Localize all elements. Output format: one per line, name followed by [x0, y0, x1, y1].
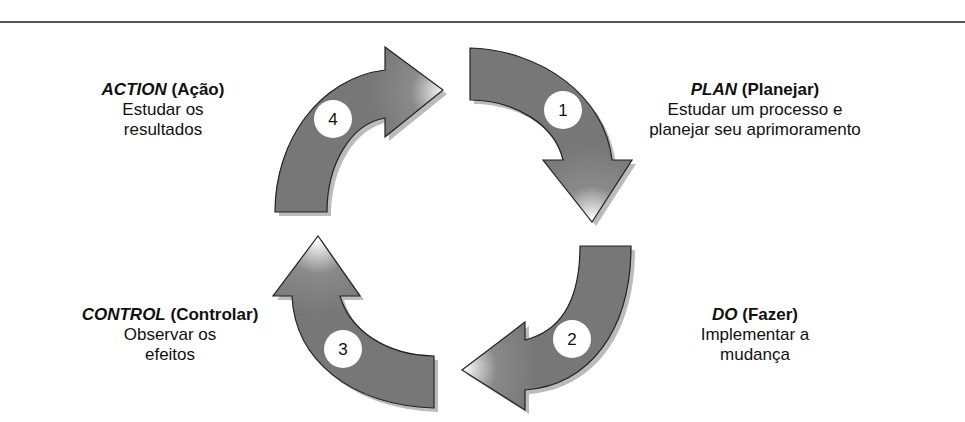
- arrow-1: [470, 48, 636, 226]
- step-number-1: 1: [544, 91, 582, 129]
- label-do-line1: Implementar a: [665, 325, 845, 345]
- label-control: CONTROL (Controlar) Observar os efeitos: [50, 305, 290, 365]
- step-number-3: 3: [324, 330, 362, 368]
- label-plan-title: PLAN (Planejar): [630, 80, 880, 100]
- label-plan: PLAN (Planejar) Estudar um processo e pl…: [630, 80, 880, 140]
- label-action-line1: Estudar os: [73, 100, 253, 120]
- step-number-4: 4: [314, 100, 352, 138]
- arrow-4: [275, 47, 447, 216]
- svg-text:4: 4: [328, 110, 337, 129]
- label-do-line2: mudança: [665, 345, 845, 365]
- svg-text:3: 3: [338, 340, 347, 359]
- label-control-line1: Observar os: [50, 325, 290, 345]
- label-do: DO (Fazer) Implementar a mudança: [665, 305, 845, 365]
- step-number-2: 2: [553, 320, 591, 358]
- arrow-2: [462, 246, 635, 414]
- svg-text:2: 2: [567, 330, 576, 349]
- label-control-line2: efeitos: [50, 345, 290, 365]
- label-plan-line1: Estudar um processo e: [630, 100, 880, 120]
- label-plan-line2: planejar seu aprimoramento: [630, 120, 880, 140]
- label-do-title: DO (Fazer): [665, 305, 845, 325]
- label-action-line2: resultados: [73, 120, 253, 140]
- svg-text:1: 1: [558, 101, 567, 120]
- label-control-title: CONTROL (Controlar): [50, 305, 290, 325]
- arrow-3: [273, 236, 438, 412]
- label-action: ACTION (Ação) Estudar os resultados: [73, 80, 253, 140]
- label-action-title: ACTION (Ação): [73, 80, 253, 100]
